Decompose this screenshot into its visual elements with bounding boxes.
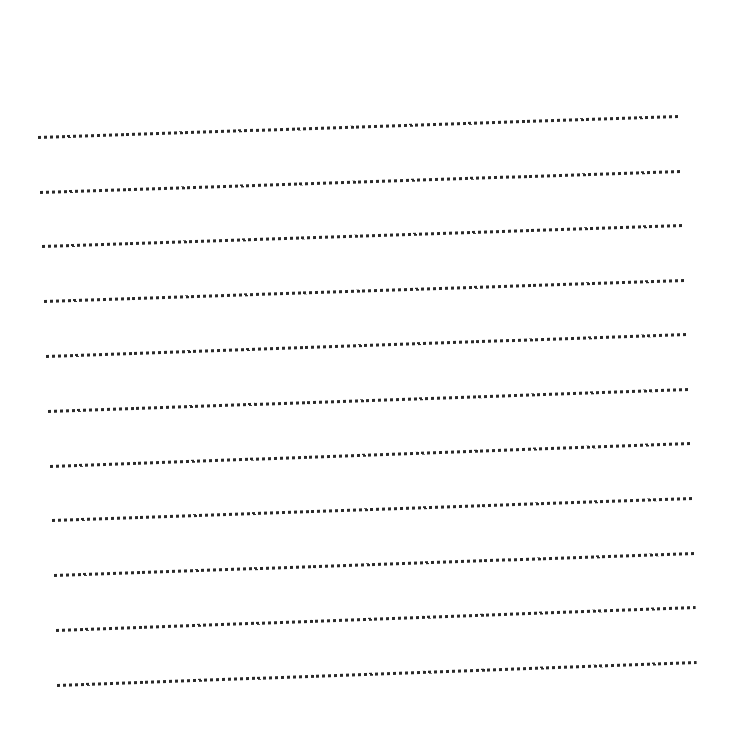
dotted-rule-line: [40, 170, 681, 194]
dotted-rule-line: [57, 661, 697, 687]
dotted-rule-line: [42, 224, 683, 248]
dotted-rule-line: [44, 279, 685, 303]
dotted-rule-line: [52, 497, 693, 522]
dotted-rule-line: [50, 442, 691, 468]
dotted-rule-line: [48, 388, 689, 413]
dotted-rule-line: [56, 606, 696, 632]
ruled-sheet: [0, 0, 731, 742]
dotted-rule-line: [38, 115, 679, 139]
dotted-rule-line: [54, 552, 695, 577]
dotted-rule-line: [46, 333, 687, 358]
